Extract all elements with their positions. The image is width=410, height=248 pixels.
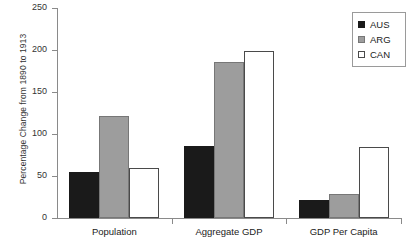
- legend-label-can: CAN: [370, 49, 390, 60]
- bar-aus-gdp-per-capita: [299, 200, 329, 218]
- x-axis-label-aggregate-gdp: Aggregate GDP: [172, 226, 287, 237]
- bar-can-population: [129, 168, 159, 218]
- bar-arg-gdp-per-capita: [329, 194, 359, 218]
- y-tick-label-100: 100: [7, 128, 47, 138]
- legend-swatch-can-icon: [358, 51, 365, 58]
- y-tick-0: [52, 218, 57, 219]
- bar-arg-population: [99, 116, 129, 218]
- legend-swatch-arg-icon: [358, 36, 365, 43]
- x-axis-line: [57, 218, 401, 219]
- plot-area: [57, 8, 401, 218]
- x-axis-label-gdp-per-capita: GDP Per Capita: [286, 226, 401, 237]
- bar-can-aggregate-gdp: [244, 51, 274, 218]
- x-axis-label-population: Population: [57, 226, 172, 237]
- y-tick-label-250: 250: [7, 2, 47, 12]
- legend-label-aus: AUS: [370, 19, 390, 30]
- x-axis-group-separator: [172, 218, 173, 224]
- x-axis-end-tick: [401, 218, 402, 224]
- legend: AUS ARG CAN: [352, 12, 406, 67]
- bar-aus-aggregate-gdp: [184, 146, 214, 218]
- y-tick-label-150: 150: [7, 86, 47, 96]
- legend-item-can: CAN: [358, 47, 400, 62]
- bar-chart: Percentage Change from 1890 to 1913 0501…: [0, 0, 410, 248]
- y-tick-label-0: 0: [7, 212, 47, 222]
- legend-item-aus: AUS: [358, 17, 400, 32]
- x-axis-group-separator: [286, 218, 287, 224]
- legend-swatch-aus-icon: [358, 21, 365, 28]
- bar-aus-population: [69, 172, 99, 218]
- legend-item-arg: ARG: [358, 32, 400, 47]
- y-tick-label-50: 50: [7, 170, 47, 180]
- bar-can-gdp-per-capita: [359, 147, 389, 218]
- legend-label-arg: ARG: [370, 34, 391, 45]
- bar-arg-aggregate-gdp: [214, 62, 244, 218]
- y-tick-label-200: 200: [7, 44, 47, 54]
